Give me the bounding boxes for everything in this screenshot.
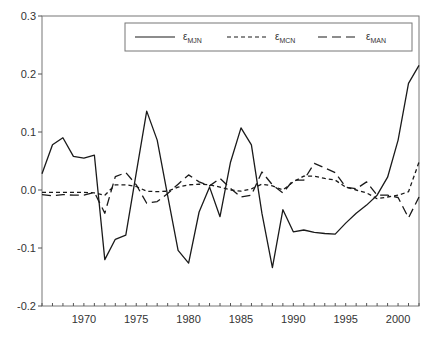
y-tick-label: -0.1 [17, 242, 36, 254]
series-line-mjn [42, 65, 419, 267]
y-tick-label: 0.2 [21, 68, 36, 80]
y-axis: -0.2-0.10.00.10.20.3 [17, 10, 42, 312]
x-tick-label: 1990 [281, 313, 305, 325]
x-tick-label: 2000 [386, 313, 410, 325]
series-layer [42, 65, 419, 267]
y-tick-label: -0.2 [17, 300, 36, 312]
line-chart: -0.2-0.10.00.10.20.3 1970197519801985199… [0, 0, 431, 337]
series-line-mcn [42, 162, 419, 199]
x-tick-label: 1995 [333, 313, 357, 325]
y-tick-label: 0.1 [21, 126, 36, 138]
x-tick-label: 1970 [72, 313, 96, 325]
x-tick-label: 1985 [229, 313, 253, 325]
legend: εMJNεMCNεMAN [125, 23, 412, 51]
x-tick-label: 1975 [124, 313, 148, 325]
x-tick-label: 1980 [176, 313, 200, 325]
y-tick-label: 0.3 [21, 10, 36, 22]
y-tick-label: 0.0 [21, 184, 36, 196]
